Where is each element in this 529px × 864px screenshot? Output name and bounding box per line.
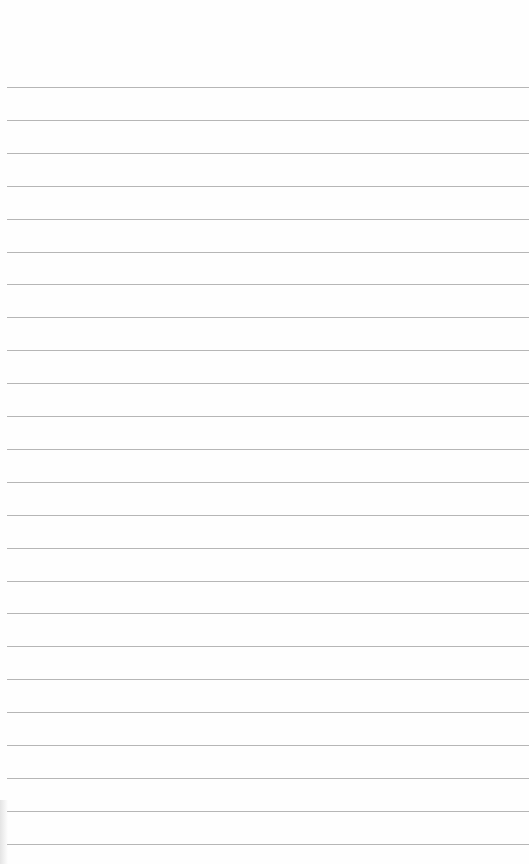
ruled-line <box>7 811 529 812</box>
ruled-line <box>7 153 529 154</box>
ruled-line <box>7 284 529 285</box>
ruled-line <box>7 745 529 746</box>
ruled-line <box>7 646 529 647</box>
ruled-line <box>7 350 529 351</box>
ruled-line <box>7 449 529 450</box>
ruled-line <box>7 548 529 549</box>
ruled-line <box>7 317 529 318</box>
ruled-line <box>7 383 529 384</box>
ruled-line <box>7 252 529 253</box>
ruled-line <box>7 482 529 483</box>
ruled-line <box>7 416 529 417</box>
ruled-line <box>7 581 529 582</box>
ruled-line <box>7 778 529 779</box>
ruled-line <box>7 219 529 220</box>
lined-paper-sheet <box>0 0 529 864</box>
ruled-line <box>7 515 529 516</box>
page-edge-shadow <box>0 800 8 864</box>
ruled-line <box>7 613 529 614</box>
ruled-line <box>7 120 529 121</box>
ruled-line <box>7 844 529 845</box>
ruled-line <box>7 679 529 680</box>
ruled-line <box>7 87 529 88</box>
ruled-line <box>7 186 529 187</box>
ruled-line <box>7 712 529 713</box>
